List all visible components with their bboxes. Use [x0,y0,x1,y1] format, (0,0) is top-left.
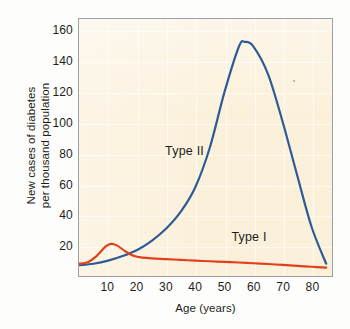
series-curves [79,19,332,276]
series-label-type-i: Type I [231,230,266,244]
x-axis-tick-label: 20 [130,280,144,294]
y-axis-tick-label: 140 [36,54,73,68]
plot-area: Type II Type I [78,18,333,277]
y-axis-tick-label: 40 [36,208,73,222]
series-label-type-ii: Type II [165,144,204,158]
y-axis-tick-labels: 20406080100120140160 [36,0,73,329]
series-line-type-i [79,244,326,268]
y-axis-tick-label: 80 [36,147,73,161]
x-axis-tick-label: 10 [100,280,114,294]
x-axis-tick-label: 50 [218,280,232,294]
paper-speck [293,80,295,82]
y-axis-tick-label: 100 [36,116,73,130]
y-axis-tick-label: 120 [36,85,73,99]
x-axis-tick-label: 70 [276,280,290,294]
y-axis-tick-label: 60 [36,178,73,192]
x-axis-tick-label: 80 [306,280,320,294]
x-axis-tick-label: 60 [247,280,261,294]
y-axis-tick-label: 160 [36,23,73,37]
x-axis-tick-labels: 1020304050607080 [78,280,333,298]
x-axis-title: Age (years) [78,302,333,314]
x-axis-tick-label: 40 [188,280,202,294]
chart-figure: New cases of diabetes per thousand popul… [0,0,350,329]
y-axis-tick-label: 20 [36,239,73,253]
x-axis-tick-label: 30 [159,280,173,294]
